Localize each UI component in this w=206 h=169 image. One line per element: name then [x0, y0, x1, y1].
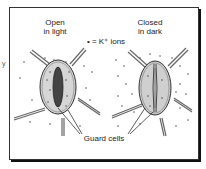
open-stoma [40, 60, 76, 114]
stomata-illustration [0, 0, 206, 169]
closed-stoma [139, 61, 171, 115]
guard-cell-pointers [58, 108, 153, 134]
